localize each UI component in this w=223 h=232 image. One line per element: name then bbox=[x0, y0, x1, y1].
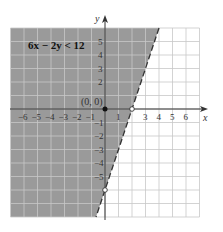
inequality-graph: −6−5−4−3−2−113456 5432−1−2−3−4−5 x y (0,… bbox=[0, 0, 223, 232]
x-tick-label: −6 bbox=[18, 112, 28, 122]
y-tick-label: 3 bbox=[98, 64, 103, 74]
x-tick-label: 5 bbox=[170, 112, 175, 122]
y-tick-label: −1 bbox=[94, 118, 104, 128]
y-axis-label: y bbox=[94, 13, 100, 24]
y-tick-label: 5 bbox=[98, 37, 103, 47]
x-tick-label: −2 bbox=[72, 112, 82, 122]
x-axis-label: x bbox=[202, 112, 208, 123]
x-tick-label: 4 bbox=[157, 112, 162, 122]
x-tick-label: −3 bbox=[59, 112, 69, 122]
origin-label: (0, 0) bbox=[81, 96, 103, 108]
x-tick-label: −5 bbox=[32, 112, 42, 122]
x-intercept-point bbox=[130, 107, 135, 112]
y-tick-label: 4 bbox=[98, 50, 103, 60]
origin-point bbox=[103, 107, 108, 112]
y-tick-label: −3 bbox=[94, 145, 104, 155]
x-tick-label: −4 bbox=[45, 112, 55, 122]
y-tick-label: −5 bbox=[94, 172, 104, 182]
x-tick-label: 1 bbox=[116, 112, 121, 122]
y-tick-label: 2 bbox=[98, 77, 103, 87]
y-tick-label: −4 bbox=[94, 158, 104, 168]
x-tick-label: 3 bbox=[143, 112, 148, 122]
y-intercept-point bbox=[103, 188, 108, 193]
inequality-label: 6x − 2y < 12 bbox=[28, 39, 85, 51]
y-tick-label: −2 bbox=[94, 131, 104, 141]
x-tick-label: 6 bbox=[184, 112, 189, 122]
